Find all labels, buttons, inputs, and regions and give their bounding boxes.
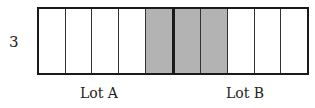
cell-5-shaded <box>145 9 172 73</box>
cell-7-shaded <box>200 9 227 73</box>
cell-9 <box>254 9 281 73</box>
cell-6-shaded <box>172 9 201 73</box>
cell-8 <box>227 9 254 73</box>
lots-rectangle <box>37 7 309 75</box>
lot-b-label: Lot B <box>226 85 264 101</box>
side-length-label: 3 <box>9 33 19 51</box>
cell-1 <box>39 9 65 73</box>
cell-10 <box>280 9 307 73</box>
cell-4 <box>118 9 145 73</box>
cell-3 <box>91 9 118 73</box>
cell-2 <box>65 9 92 73</box>
lot-a-label: Lot A <box>80 85 118 101</box>
